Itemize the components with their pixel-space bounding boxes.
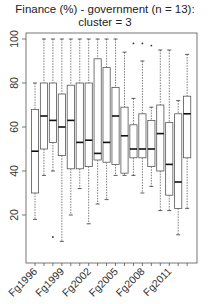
x-tick-label: Fg1999: [33, 265, 67, 299]
y-tick-label: 80: [8, 77, 20, 89]
y-tick-label: 100: [8, 30, 20, 48]
x-tick-label: Fg2002: [59, 265, 93, 299]
outlier-point: [133, 43, 135, 45]
iqr-box: [85, 83, 92, 167]
outlier-point: [52, 236, 54, 238]
iqr-box: [49, 83, 56, 142]
iqr-box: [67, 85, 74, 169]
outlier-point: [142, 43, 144, 45]
x-tick-label: Fg2005: [86, 265, 120, 299]
y-tick-label: 60: [8, 121, 20, 133]
iqr-box: [184, 96, 191, 158]
iqr-box: [148, 120, 155, 166]
iqr-box: [103, 68, 110, 163]
iqr-box: [94, 59, 101, 160]
iqr-box: [58, 94, 65, 156]
iqr-box: [112, 87, 119, 164]
y-tick-label: 20: [8, 209, 20, 221]
iqr-box: [166, 123, 173, 196]
iqr-box: [121, 107, 128, 173]
iqr-box: [76, 83, 83, 169]
iqr-box: [139, 114, 146, 158]
boxplot-canvas: 20406080100Fg1996Fg1999Fg2002Fg2005Fg200…: [0, 0, 210, 304]
outlier-point: [150, 45, 152, 47]
x-tick-label: Fg1996: [6, 265, 40, 299]
iqr-box: [130, 125, 137, 158]
y-tick-label: 40: [8, 165, 20, 177]
chart-root: Finance (%) - government (n = 13): clust…: [0, 0, 210, 304]
x-tick-label: Fg2008: [113, 265, 147, 299]
iqr-box: [175, 114, 182, 209]
iqr-box: [157, 105, 164, 171]
x-tick-label: Fg2011: [141, 265, 174, 298]
